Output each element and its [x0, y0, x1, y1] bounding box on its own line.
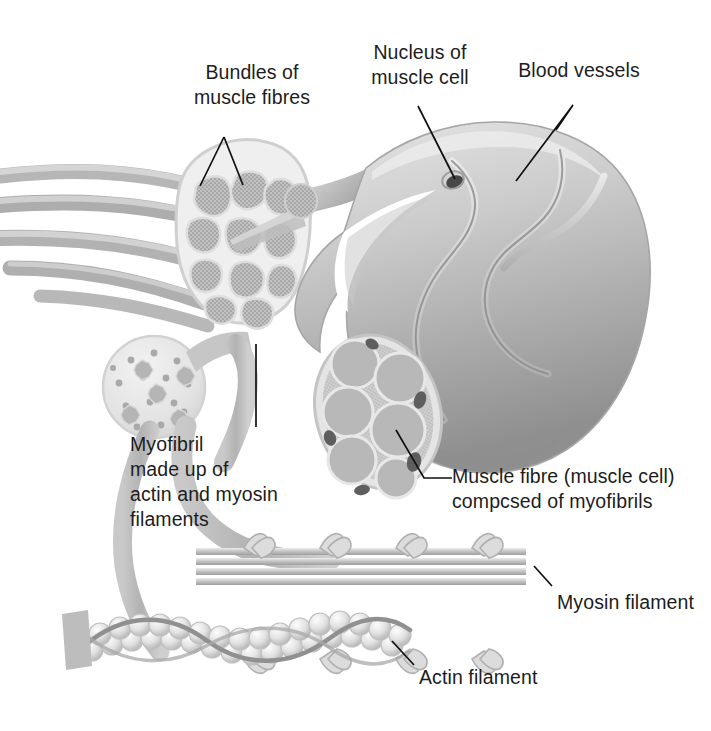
leader-blood-vessels — [516, 105, 573, 181]
label-muscle-fibre: Muscle fibre (muscle cell) compcsed of m… — [452, 464, 702, 514]
label-blood-vessels: Blood vessels — [504, 58, 654, 83]
leader-lines — [0, 0, 711, 731]
leader-bundles-a — [200, 137, 224, 186]
muscle-structure-diagram: Bundles of muscle fibres Nucleus of musc… — [0, 0, 711, 731]
label-myosin-filament: Myosin filament — [557, 590, 694, 615]
leader-myosin — [534, 566, 552, 586]
label-myofibril: Myofibril made up of actin and myosin fi… — [130, 432, 340, 532]
label-nucleus-of-muscle-cell: Nucleus of muscle cell — [347, 40, 493, 90]
label-bundles-of-muscle-fibres: Bundles of muscle fibres — [178, 60, 326, 110]
leader-actin — [392, 641, 414, 665]
leader-bundles-b — [224, 137, 243, 185]
leader-muscle-fibre — [396, 430, 452, 478]
leader-nucleus — [418, 106, 455, 179]
label-actin-filament: Actin filament — [419, 665, 537, 690]
